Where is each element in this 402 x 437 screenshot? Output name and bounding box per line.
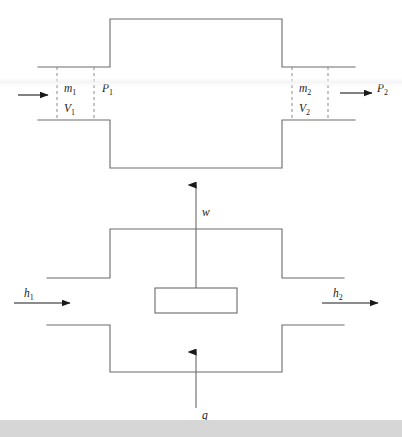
lower-contour-path	[38, 120, 355, 168]
work-label: w	[202, 206, 210, 218]
inlet-pressure-label: P1	[101, 82, 113, 97]
upper-diagram: m1 V1 P1 m2 V2 P2	[18, 19, 388, 168]
outlet-volume-label: V2	[299, 102, 310, 117]
figure-container: m1 V1 P1 m2 V2 P2	[0, 0, 402, 437]
thermodynamics-control-volume-diagram: m1 V1 P1 m2 V2 P2	[0, 0, 402, 437]
outlet-mass-label: m2	[299, 82, 311, 97]
work-device-box	[155, 288, 237, 313]
upper-contour-path	[38, 19, 355, 67]
outlet-enthalpy-label: h2	[333, 287, 343, 302]
inlet-enthalpy-label: h1	[24, 287, 34, 302]
page-edge-strip	[0, 420, 402, 437]
inlet-volume-label: V1	[64, 102, 75, 117]
inlet-mass-label: m1	[64, 82, 76, 97]
outlet-pressure-label: P2	[376, 82, 388, 97]
lower-diagram: h1 h2 w q	[14, 185, 378, 422]
